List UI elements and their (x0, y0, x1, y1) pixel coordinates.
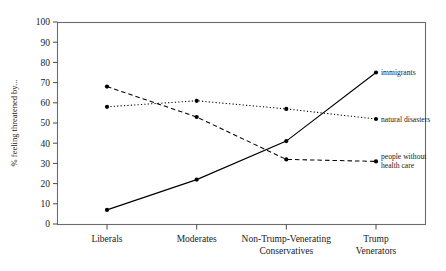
x-tick-label-nontrump-line1: Non-Trump-Venerating (242, 234, 332, 244)
series-label-immigrants: immigrants (381, 68, 416, 77)
y-tick-label: 80 (41, 58, 51, 68)
data-point (195, 178, 199, 182)
x-tick-label-trump-line1: Trump (363, 234, 389, 244)
x-tick-label-trump-line2: Venerators (356, 246, 397, 256)
line-chart: 0 10 20 30 40 50 60 70 80 90 100 % (0, 0, 446, 271)
y-tick-label: 0 (45, 219, 50, 229)
x-tick-label-liberals: Liberals (91, 234, 122, 244)
data-point (284, 157, 288, 161)
y-tick-label: 10 (41, 199, 51, 209)
chart-container: 0 10 20 30 40 50 60 70 80 90 100 % (0, 0, 446, 271)
series-label-people-without-health-care-line2: health care (381, 161, 415, 170)
data-point (195, 115, 199, 119)
data-point (195, 99, 199, 103)
data-point (374, 70, 378, 74)
x-tick-label-nontrump-line2: Conservatives (259, 246, 313, 256)
y-tick-label: 30 (41, 159, 51, 169)
data-point (105, 208, 109, 212)
data-point (284, 107, 288, 111)
x-tick-label-moderates: Moderates (177, 234, 217, 244)
y-tick-label: 50 (41, 118, 51, 128)
data-point (374, 117, 378, 121)
y-tick-label: 70 (41, 78, 51, 88)
y-tick-label: 60 (41, 98, 51, 108)
data-point (105, 85, 109, 89)
y-tick-label: 100 (36, 17, 51, 27)
series-label-people-without-health-care-line1: people without (381, 152, 427, 161)
y-tick-label: 90 (41, 38, 51, 48)
series-label-natural-disasters: natural disasters (381, 115, 430, 124)
chart-background (0, 0, 446, 271)
y-tick-label: 40 (41, 139, 51, 149)
y-tick-label: 20 (41, 179, 51, 189)
data-point (374, 159, 378, 163)
data-point (105, 105, 109, 109)
y-axis-title: % feeling threatened by... (9, 80, 19, 167)
data-point (284, 139, 288, 143)
